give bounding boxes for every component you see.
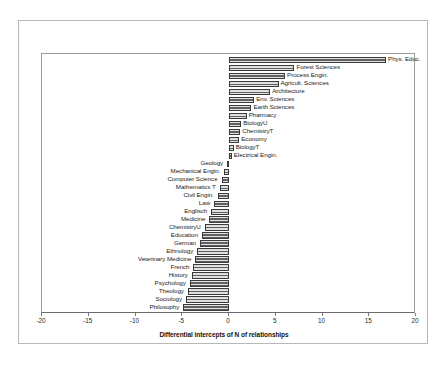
- bar-category-label: Theology: [159, 287, 184, 295]
- x-tick-mark: [88, 313, 89, 316]
- x-tick-mark: [415, 313, 416, 316]
- bar-row: Education: [42, 232, 414, 240]
- bar: [229, 81, 279, 87]
- bar-row: Psychology: [42, 280, 414, 288]
- bar-category-label: Forest Sciences: [296, 63, 340, 71]
- bar: [229, 121, 241, 127]
- bar: [229, 129, 240, 135]
- bar-category-label: Mechanical Engin.: [171, 167, 221, 175]
- bar-row: Englisch: [42, 208, 414, 216]
- bar: [222, 177, 229, 183]
- bar-row: ChemistryT: [42, 128, 414, 136]
- bar: [229, 97, 254, 103]
- bar: [229, 73, 285, 79]
- bar-row: BiologyU: [42, 120, 414, 128]
- bar: [190, 280, 229, 286]
- bar-row: Geology: [42, 160, 414, 168]
- x-tick-label: 20: [411, 317, 418, 324]
- bar: [229, 153, 232, 159]
- bar-row: Sociology: [42, 296, 414, 304]
- bar: [209, 216, 229, 222]
- x-tick-mark: [41, 313, 42, 316]
- bar-row: Philosophy: [42, 304, 414, 312]
- bar-category-label: History: [169, 271, 188, 279]
- bar-row: Civil Engin.: [42, 192, 414, 200]
- bar-category-label: Medicine: [181, 215, 205, 223]
- chart-figure: Phys. Educ.Forest SciencesProcess Engin.…: [18, 20, 428, 344]
- bar-row: Veterinary Medicine: [42, 256, 414, 264]
- bar-row: Pharmacy: [42, 112, 414, 120]
- bar: [195, 256, 229, 262]
- bar-category-label: Philosophy: [149, 303, 179, 311]
- x-tick-label: 5: [273, 317, 277, 324]
- bar-category-label: Psychology: [155, 279, 186, 287]
- bar-category-label: Education: [171, 231, 198, 239]
- bar-row: Mathematics T: [42, 184, 414, 192]
- x-tick-mark: [275, 313, 276, 316]
- bar-row: History: [42, 272, 414, 280]
- bar-category-label: Veterinary Medicine: [138, 255, 191, 263]
- bar-row: Ethnology: [42, 248, 414, 256]
- bar-row: Law: [42, 200, 414, 208]
- bar-category-label: Env. Sciences: [256, 95, 294, 103]
- bar-category-label: ChemistryT: [242, 127, 273, 135]
- bar-category-label: Phys. Educ.: [388, 55, 420, 63]
- x-tick-label: -20: [36, 317, 45, 324]
- bar-category-label: Mathematics T: [176, 183, 216, 191]
- bar-category-label: Architecture: [272, 87, 304, 95]
- bar: [229, 145, 234, 151]
- x-tick-mark: [228, 313, 229, 316]
- bar: [229, 89, 270, 95]
- bar-category-label: Geology: [200, 159, 223, 167]
- bar-row: Forest Sciences: [42, 64, 414, 72]
- bar-category-label: ChemistryU: [169, 223, 201, 231]
- bar: [227, 161, 229, 167]
- x-tick-mark: [322, 313, 323, 316]
- bar-category-label: Computer Science: [167, 175, 217, 183]
- bar-row: Economy: [42, 136, 414, 144]
- bar: [220, 185, 229, 191]
- x-tick-label: -15: [83, 317, 92, 324]
- bar-category-label: Process Engin.: [287, 71, 328, 79]
- bar: [183, 304, 229, 310]
- bar-row: ChemistryU: [42, 224, 414, 232]
- x-tick-mark: [135, 313, 136, 316]
- bar-category-label: Civil Engin.: [183, 191, 213, 199]
- bar-row: Agricult. Sciences: [42, 80, 414, 88]
- x-tick-label: -10: [130, 317, 139, 324]
- bar-row: Electrical Engin.: [42, 152, 414, 160]
- bar: [205, 224, 229, 230]
- bar-row: Computer Science: [42, 176, 414, 184]
- bar-row: Env. Sciences: [42, 96, 414, 104]
- x-tick-mark: [368, 313, 369, 316]
- bar-category-label: Englisch: [184, 207, 207, 215]
- x-tick-label: 10: [318, 317, 325, 324]
- bar-row: Architecture: [42, 88, 414, 96]
- bar-category-label: Earth Sciences: [253, 103, 294, 111]
- x-axis-title: Differential intercepts of N of relation…: [19, 331, 429, 338]
- bar-category-label: Economy: [241, 135, 266, 143]
- bar: [218, 193, 229, 199]
- bar: [214, 201, 229, 207]
- bar-row: Earth Sciences: [42, 104, 414, 112]
- plot-area: Phys. Educ.Forest SciencesProcess Engin.…: [41, 53, 415, 313]
- bar: [211, 209, 229, 215]
- x-tick-mark: [181, 313, 182, 316]
- bar: [224, 169, 229, 175]
- bar-row: German: [42, 240, 414, 248]
- bar: [229, 57, 386, 63]
- bar-category-label: Law: [199, 199, 210, 207]
- bar: [200, 240, 229, 246]
- bar-category-label: Sociology: [156, 295, 182, 303]
- bar-category-label: Electrical Engin.: [234, 151, 278, 159]
- bar: [192, 272, 229, 278]
- bar: [188, 288, 229, 294]
- x-axis-ticks: -20-15-10-505101520: [41, 313, 415, 329]
- bar-row: Theology: [42, 288, 414, 296]
- x-tick-label: 0: [226, 317, 230, 324]
- bar: [197, 248, 229, 254]
- bar: [229, 105, 251, 111]
- bar-category-label: BiologyT: [236, 143, 260, 151]
- bar-category-label: German: [174, 239, 196, 247]
- x-tick-label: -5: [178, 317, 184, 324]
